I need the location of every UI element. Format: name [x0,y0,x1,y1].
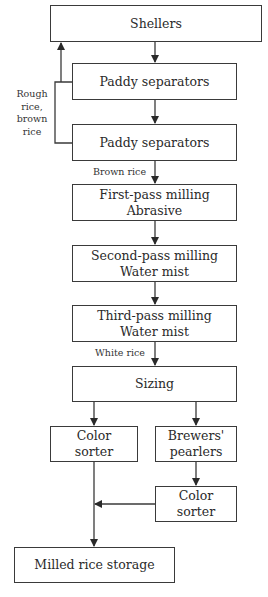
recycle-bracket [55,82,72,143]
node-label: Brewers' [168,428,224,444]
node-third-pass-milling: Third-pass milling Water mist [72,305,237,342]
node-label: sorter [75,444,113,460]
node-paddy-separators-2: Paddy separators [72,124,237,161]
edge-label-recycle: Rough rice, brown rice [14,88,50,138]
node-shellers: Shellers [50,5,262,42]
edge-label-brown-rice: Brown rice [93,166,146,178]
node-label: Second-pass milling [91,248,218,264]
node-label: Shellers [130,16,182,32]
edge-label-line: brown [14,113,50,126]
edge-label-line: rice, [14,101,50,114]
node-label: sorter [177,504,215,520]
node-second-pass-milling: Second-pass milling Water mist [72,245,237,282]
node-color-sorter-1: Color sorter [50,426,138,462]
node-color-sorter-2: Color sorter [155,486,237,522]
node-label: Sizing [135,376,174,392]
edge-label-line: Rough [14,88,50,101]
node-label: Milled rice storage [34,557,154,573]
node-label: pearlers [170,444,223,460]
node-label: First-pass milling [99,187,209,203]
node-label: Color [179,488,214,504]
node-label: Paddy separators [100,135,210,151]
edge-label-line: rice [14,126,50,139]
node-sublabel: Water mist [120,324,189,340]
node-sublabel: Abrasive [127,203,182,219]
node-paddy-separators-1: Paddy separators [72,63,237,100]
node-label: Paddy separators [100,74,210,90]
node-first-pass-milling: First-pass milling Abrasive [72,184,237,221]
node-label: Third-pass milling [97,308,212,324]
node-sublabel: Water mist [120,264,189,280]
node-brewers-pearlers: Brewers' pearlers [155,426,237,462]
node-milled-rice-storage: Milled rice storage [14,547,175,583]
node-sizing: Sizing [72,366,237,402]
node-label: Color [77,428,112,444]
edge-label-white-rice: White rice [95,347,145,359]
